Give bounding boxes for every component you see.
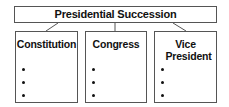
root-node-label: Presidential Succession: [55, 8, 177, 20]
bullet-point: [22, 94, 25, 97]
connector-constitution: [46, 23, 58, 31]
bullet-list: [22, 58, 25, 97]
bullet-point: [92, 94, 95, 97]
root-node: Presidential Succession: [14, 6, 217, 23]
bullet-point: [22, 81, 25, 84]
bullet-point: [92, 68, 95, 71]
bullet-point: [161, 68, 164, 71]
child-node-label: Constitution: [16, 38, 77, 50]
child-node-congress: Congress: [85, 31, 147, 103]
child-node-label: Vice President: [166, 38, 206, 62]
child-node-label: Congress: [86, 38, 146, 50]
bullet-point: [92, 81, 95, 84]
bullet-point: [161, 81, 164, 84]
bullet-point: [22, 68, 25, 71]
bullet-list: [161, 58, 164, 97]
child-node-vice-president: Vice President: [154, 31, 217, 103]
bullet-point: [161, 94, 164, 97]
connector-vice-president: [173, 23, 186, 31]
child-node-constitution: Constitution: [15, 31, 78, 103]
bullet-list: [92, 58, 95, 97]
